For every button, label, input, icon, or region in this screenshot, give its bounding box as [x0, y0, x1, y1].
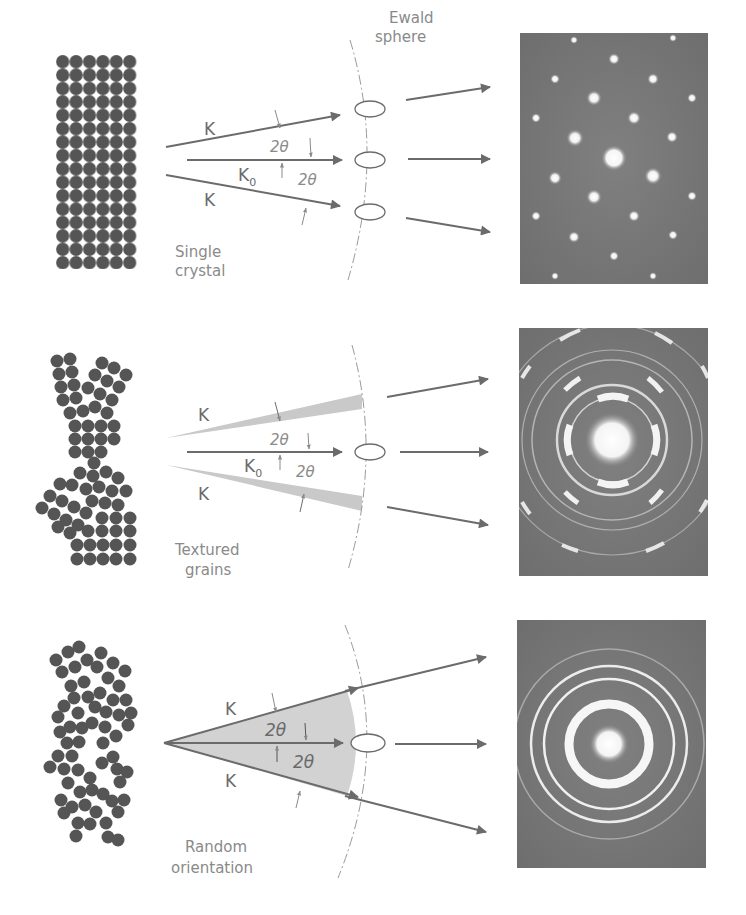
diffracted-arrow [406, 218, 490, 232]
angle-label-upper: 2θ [270, 138, 289, 156]
angle-label-upper: 2θ [265, 720, 287, 740]
reciprocal-point [355, 204, 385, 220]
textured-grains-atoms [36, 353, 137, 566]
caption-grains: grains [185, 561, 232, 579]
panel-single-crystal: K K K0 2θ 2θ Single crystal Ewald sphere [56, 9, 708, 284]
angle-tick [275, 110, 280, 128]
angle-tick [296, 791, 300, 808]
k-beam-upper [166, 115, 340, 147]
diffracted-arrow [406, 87, 490, 100]
k-label-lower: K [225, 771, 237, 791]
sphere-label: sphere [375, 28, 426, 46]
k0-label: K0 [244, 456, 262, 480]
single-crystal-lattice [56, 55, 136, 269]
angle-label-lower: 2θ [296, 463, 315, 481]
panel-textured-grains: K K K0 2θ 2θ Textured grains [36, 325, 728, 579]
caption-orientation: orientation [171, 859, 253, 877]
reciprocal-point [351, 734, 385, 752]
caption-random: Random [185, 838, 247, 856]
diffracted-arrow [387, 379, 488, 397]
reciprocal-point [355, 152, 385, 168]
random-ring-pattern [514, 620, 706, 868]
k-label-upper: K [225, 699, 237, 719]
single-crystal-spot-pattern [520, 33, 708, 284]
caption-single: Single [175, 243, 221, 261]
diffracted-arrow [387, 507, 488, 525]
panel-random-orientation: K K 2θ 2θ Random orientation [44, 620, 707, 878]
reciprocal-point [355, 444, 385, 460]
k-label-upper: K [204, 119, 216, 139]
k-label-upper: K [198, 405, 210, 425]
angle-tick [310, 138, 311, 157]
textured-ring-pattern [497, 325, 727, 576]
angle-label-lower: 2θ [293, 752, 315, 772]
caption-textured: Textured [174, 541, 239, 559]
reciprocal-point [355, 101, 385, 117]
angle-tick [272, 693, 276, 712]
angle-tick [308, 433, 309, 449]
caption-crystal: crystal [175, 262, 225, 280]
diffracted-arrow [345, 657, 486, 691]
random-orientation-atoms [44, 641, 138, 847]
diffraction-figure: K K K0 2θ 2θ Single crystal Ewald sphere [0, 0, 746, 915]
k-label-lower: K [198, 484, 210, 504]
k-label-lower: K [204, 190, 216, 210]
textured-beam-wedge-upper [166, 394, 362, 438]
angle-label-upper: 2θ [270, 431, 289, 449]
angle-tick [302, 208, 306, 225]
textured-beam-wedge-lower [166, 465, 362, 511]
ewald-label: Ewald [389, 9, 434, 27]
diffracted-arrow [345, 796, 486, 832]
angle-label-lower: 2θ [298, 171, 317, 189]
k0-label: K0 [238, 165, 256, 189]
